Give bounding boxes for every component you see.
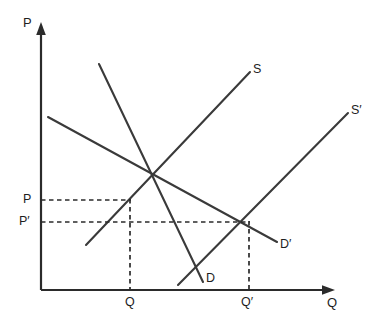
- curves-group: [48, 64, 348, 285]
- supply-curve-s-prime: [178, 113, 348, 285]
- quantity-tick-label: Q: [125, 296, 135, 309]
- demand-curve-d-prime: [48, 117, 277, 242]
- supply-curve-label: S: [253, 63, 261, 76]
- x-axis-label: Q: [327, 296, 337, 309]
- y-axis-arrowhead: [36, 22, 46, 35]
- supply-demand-figure: P Q P P′ Q Q′ D D′ S S′: [0, 0, 380, 326]
- supply-curve-s: [86, 72, 250, 245]
- demand-curve-label: D: [206, 272, 215, 285]
- price-tick-label: P: [23, 193, 31, 206]
- diagram-canvas: [0, 0, 380, 326]
- quantity-prime-tick-label: Q′: [241, 296, 253, 309]
- supply-prime-curve-label: S′: [351, 104, 362, 117]
- price-prime-tick-label: P′: [19, 215, 30, 228]
- y-axis-label: P: [23, 16, 32, 29]
- axes-group: [36, 22, 335, 295]
- demand-prime-curve-label: D′: [280, 238, 291, 251]
- x-axis-arrowhead: [322, 285, 335, 295]
